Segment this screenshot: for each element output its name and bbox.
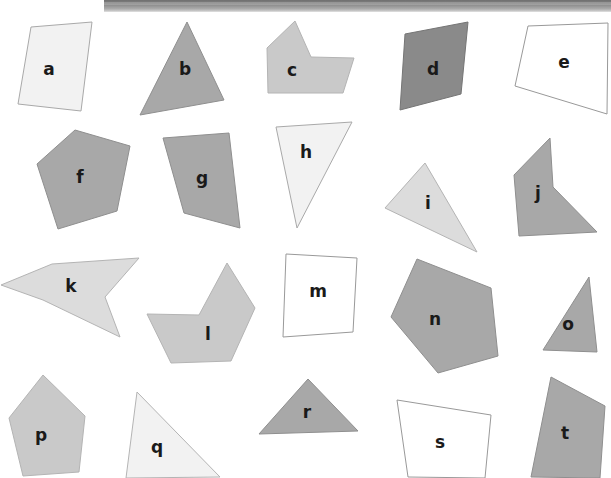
- polygon-shape-k[interactable]: [1, 258, 139, 337]
- polygon-m[interactable]: m: [283, 254, 357, 337]
- polygon-c[interactable]: c: [267, 21, 354, 93]
- polygon-label-p: p: [35, 425, 47, 445]
- polygon-g[interactable]: g: [163, 133, 240, 228]
- polygon-a[interactable]: a: [18, 22, 92, 111]
- polygon-n[interactable]: n: [391, 259, 498, 373]
- polygon-worksheet-canvas: abcdefghijklmnopqrst: [0, 0, 611, 478]
- polygon-shape-n[interactable]: [391, 259, 498, 373]
- polygon-label-n: n: [429, 309, 441, 329]
- polygon-label-o: o: [562, 314, 574, 334]
- polygon-d[interactable]: d: [400, 22, 468, 110]
- polygon-f[interactable]: f: [37, 130, 130, 229]
- polygon-e[interactable]: e: [515, 23, 608, 114]
- polygon-t[interactable]: t: [531, 377, 605, 478]
- polygon-label-g: g: [196, 168, 208, 188]
- polygon-shape-a[interactable]: [18, 22, 92, 111]
- polygon-k[interactable]: k: [1, 258, 139, 337]
- polygon-label-q: q: [151, 437, 163, 457]
- polygon-shape-h[interactable]: [276, 122, 352, 228]
- polygon-p[interactable]: p: [9, 375, 85, 476]
- polygon-r[interactable]: r: [259, 379, 358, 434]
- polygon-shape-l[interactable]: [147, 263, 255, 363]
- polygon-label-l: l: [205, 324, 211, 344]
- polygon-shape-q[interactable]: [126, 392, 220, 478]
- polygon-label-e: e: [558, 52, 570, 72]
- polygon-label-k: k: [65, 276, 77, 296]
- polygon-shape-c[interactable]: [267, 21, 354, 93]
- polygon-label-r: r: [303, 402, 312, 422]
- polygon-l[interactable]: l: [147, 263, 255, 363]
- polygon-label-b: b: [179, 59, 191, 79]
- polygon-label-d: d: [427, 59, 439, 79]
- polygon-label-i: i: [425, 193, 431, 213]
- polygon-o[interactable]: o: [543, 277, 597, 352]
- polygon-s[interactable]: s: [397, 400, 491, 478]
- polygon-j[interactable]: j: [514, 138, 597, 236]
- polygon-label-t: t: [561, 423, 569, 443]
- shapes-layer: abcdefghijklmnopqrst: [0, 0, 611, 478]
- shapes-svg: abcdefghijklmnopqrst: [0, 0, 611, 478]
- polygon-h[interactable]: h: [276, 122, 352, 228]
- polygon-label-j: j: [534, 183, 541, 203]
- polygon-label-s: s: [435, 432, 445, 452]
- polygon-label-h: h: [300, 142, 312, 162]
- polygon-label-a: a: [43, 59, 54, 79]
- polygon-q[interactable]: q: [126, 392, 220, 478]
- polygon-i[interactable]: i: [385, 163, 477, 252]
- polygon-shape-j[interactable]: [514, 138, 597, 236]
- polygon-label-m: m: [309, 281, 327, 301]
- polygon-b[interactable]: b: [140, 22, 224, 115]
- polygon-label-c: c: [287, 60, 297, 80]
- polygon-label-f: f: [76, 167, 84, 187]
- polygon-shape-i[interactable]: [385, 163, 477, 252]
